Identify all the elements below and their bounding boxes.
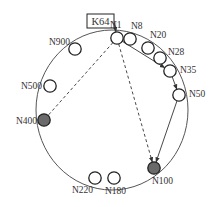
node-label: N28	[168, 47, 185, 57]
highlighted-node-circle	[38, 114, 50, 126]
key-label: K64	[91, 16, 110, 27]
node-circle	[154, 52, 166, 64]
node-label: N400	[16, 116, 37, 126]
edge-n1-to-n100	[119, 44, 153, 162]
node-circle	[142, 42, 154, 54]
nodes-layer: N1N8N20N28N35N50N100N180N220N400N500N900	[16, 20, 206, 196]
edge-n35-to-n50	[172, 77, 177, 89]
node-circle	[44, 80, 56, 92]
node-label: N900	[49, 37, 70, 47]
node-label: N20	[150, 30, 167, 40]
node-label: N50	[189, 89, 206, 99]
node-n28: N28	[154, 47, 185, 64]
node-circle	[89, 172, 101, 184]
node-n100: N100	[148, 162, 174, 186]
node-label: N220	[72, 185, 93, 195]
node-label: N35	[180, 65, 197, 75]
node-n220: N220	[72, 172, 101, 195]
node-circle	[108, 172, 120, 184]
node-circle	[69, 43, 81, 55]
node-label: N1	[110, 20, 122, 30]
node-n400: N400	[16, 114, 50, 126]
edge-n50-to-n100	[156, 101, 177, 162]
chord-ring-diagram: K64 N1N8N20N28N35N50N100N180N220N400N500…	[0, 0, 217, 207]
node-label: N500	[21, 81, 42, 91]
node-n8: N8	[124, 21, 143, 45]
node-n1: N1	[110, 20, 123, 44]
node-n500: N500	[21, 80, 56, 92]
node-n50: N50	[173, 89, 206, 101]
node-n180: N180	[105, 172, 126, 196]
node-label: N100	[152, 176, 173, 186]
node-label: N180	[105, 186, 126, 196]
node-circle	[111, 32, 123, 44]
node-circle	[164, 65, 176, 77]
highlighted-node-circle	[148, 162, 160, 174]
node-label: N8	[131, 21, 143, 31]
node-circle	[173, 89, 185, 101]
node-circle	[124, 33, 136, 45]
